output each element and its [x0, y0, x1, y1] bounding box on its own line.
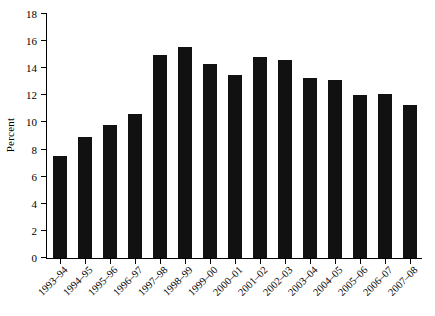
y-tick-label: 12	[26, 89, 37, 101]
bar	[328, 80, 342, 258]
y-tick: 16	[41, 40, 47, 41]
y-axis-title-label: Percent	[4, 118, 16, 152]
y-tick: 6	[41, 176, 47, 177]
bar	[253, 57, 267, 258]
plot-area: 024681012141618	[46, 14, 422, 259]
bar	[203, 64, 217, 258]
x-axis-labels: 1993–941994–951995–961996–971997–981998–…	[46, 262, 421, 316]
bar-chart: Percent 024681012141618 1993–941994–9519…	[0, 0, 435, 316]
y-tick-label: 2	[32, 225, 38, 237]
y-tick: 2	[41, 230, 47, 231]
bar	[278, 60, 292, 258]
y-tick-label: 0	[32, 252, 38, 264]
y-tick: 10	[41, 121, 47, 122]
bar	[103, 125, 117, 258]
bar	[78, 137, 92, 258]
bar	[353, 95, 367, 258]
y-axis-title: Percent	[0, 0, 20, 270]
bar	[378, 94, 392, 258]
y-tick-label: 6	[32, 171, 38, 183]
y-tick-label: 16	[26, 35, 37, 47]
bar	[228, 75, 242, 258]
bar	[303, 78, 317, 258]
y-tick: 0	[41, 257, 47, 258]
y-tick-label: 8	[32, 144, 38, 156]
y-tick-label: 18	[26, 8, 37, 20]
y-tick: 8	[41, 149, 47, 150]
y-tick-label: 4	[32, 198, 38, 210]
bar	[53, 156, 67, 258]
y-tick: 14	[41, 67, 47, 68]
y-tick: 12	[41, 94, 47, 95]
bar	[153, 55, 167, 258]
bar	[403, 105, 417, 258]
y-tick-label: 10	[26, 116, 37, 128]
bar	[178, 47, 192, 258]
y-tick: 4	[41, 203, 47, 204]
bar	[128, 114, 142, 258]
y-tick: 18	[41, 13, 47, 14]
y-tick-label: 14	[26, 62, 37, 74]
